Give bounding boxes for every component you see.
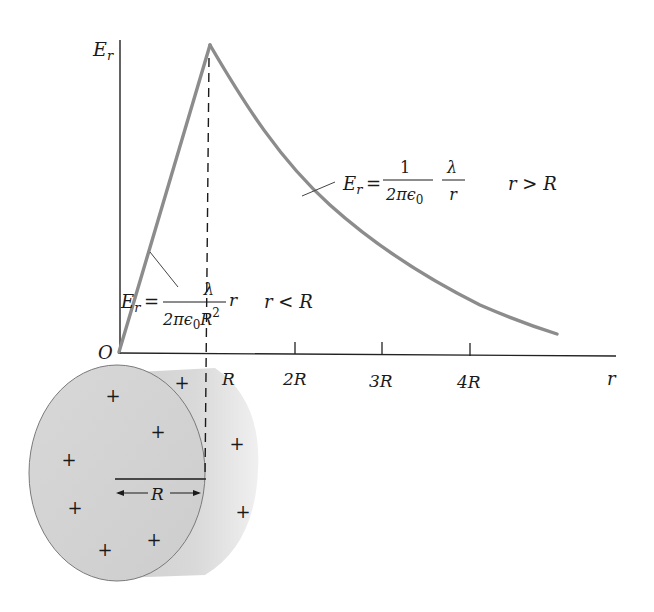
- field-curve: [119, 45, 557, 352]
- charge-plus: +: [229, 433, 244, 454]
- svg-text:=: =: [144, 291, 159, 312]
- tick-label-R: R: [221, 369, 235, 389]
- svg-text:r: r: [449, 185, 458, 204]
- svg-text:Er: Er: [120, 291, 141, 315]
- svg-text:λ: λ: [203, 279, 215, 299]
- radius-label: R: [150, 484, 164, 504]
- svg-text:r > R: r > R: [508, 173, 557, 194]
- x-axis-label: r: [607, 368, 617, 389]
- svg-text:λ: λ: [446, 158, 457, 177]
- charge-plus: +: [97, 539, 112, 560]
- formula-outside: Er = 1 2πϵ0 λ r r > R: [342, 158, 557, 207]
- formula-inside: Er = λ 2πϵ0R2 r r < R: [120, 279, 313, 332]
- charged-cylinder: R + + + + + + + + +: [29, 365, 258, 581]
- y-axis-label: Er: [92, 38, 114, 63]
- tick-label-2R: 2R: [282, 369, 307, 389]
- charge-plus: +: [235, 501, 250, 522]
- curve-outside: [210, 45, 557, 334]
- charge-plus: +: [174, 372, 189, 393]
- svg-text:Er: Er: [342, 173, 363, 197]
- tick-label-3R: 3R: [369, 371, 393, 391]
- charge-plus: +: [67, 497, 82, 518]
- leader-inside: [150, 252, 178, 287]
- axes: [118, 40, 616, 356]
- charge-plus: +: [61, 449, 76, 470]
- svg-text:2πϵ0: 2πϵ0: [385, 185, 423, 207]
- svg-text:1: 1: [400, 158, 410, 177]
- svg-text:2πϵ0R2: 2πϵ0R2: [162, 306, 220, 332]
- tick-label-4R: 4R: [456, 372, 481, 392]
- svg-text:r: r: [229, 290, 238, 310]
- origin-label: O: [98, 342, 113, 363]
- svg-text:=: =: [366, 173, 381, 194]
- charge-plus: +: [150, 421, 165, 442]
- charge-plus: +: [146, 529, 161, 550]
- field-vs-radius-diagram: R + + + + + + + + + Er O r R 2R 3R 4R: [0, 0, 654, 612]
- svg-text:r < R: r < R: [264, 291, 313, 312]
- charge-plus: +: [105, 385, 120, 406]
- axis-labels: Er O r R 2R 3R 4R: [92, 38, 617, 392]
- x-axis: [118, 353, 616, 356]
